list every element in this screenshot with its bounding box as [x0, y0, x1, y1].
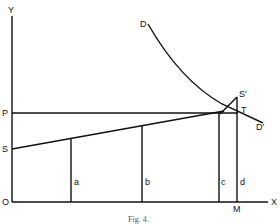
x-axis-label: X — [271, 197, 277, 207]
economics-diagram: Y X O P S D D' S' T M a b c d Fig. 4. — [0, 0, 280, 224]
label-m: M — [233, 204, 241, 214]
label-p: P — [2, 108, 8, 118]
label-s: S — [2, 144, 8, 154]
label-d: D — [140, 19, 147, 29]
label-t: T — [241, 105, 247, 115]
label-d-prime: D' — [256, 122, 264, 132]
figure-caption: Fig. 4. — [128, 215, 149, 224]
origin-label: O — [2, 197, 9, 207]
label-a: a — [74, 177, 79, 187]
label-s-prime: S' — [239, 89, 247, 99]
line-s-prime — [220, 97, 237, 114]
label-c: c — [221, 177, 226, 187]
line-s — [12, 111, 224, 149]
label-b: b — [145, 177, 150, 187]
label-d-vertical: d — [240, 177, 245, 187]
y-axis-label: Y — [8, 5, 14, 15]
